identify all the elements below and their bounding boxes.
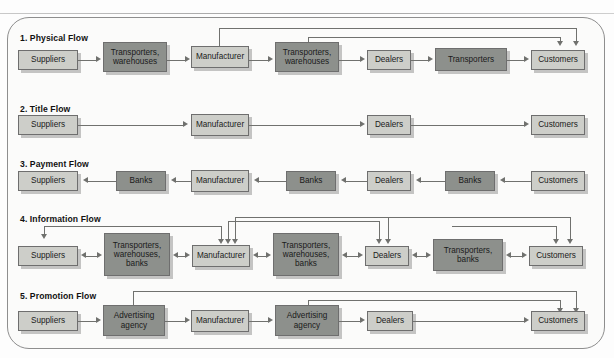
info-arrow-mfr-1 — [218, 239, 224, 244]
info-arrow-right-6 — [522, 252, 527, 258]
info-bus-2-vert-dealers — [379, 221, 380, 239]
physical-conn-3 — [249, 60, 268, 61]
node-customers-promotion: Customers — [531, 311, 585, 331]
info-arrow-right-1 — [97, 252, 102, 258]
node-suppliers-information: Suppliers — [18, 246, 78, 266]
node-transporters-physical: Transporters — [435, 48, 507, 71]
title-conn-2 — [249, 125, 360, 126]
physical-arrow-6 — [524, 56, 529, 62]
node-customers-physical: Customers — [531, 50, 585, 70]
section-title-payment-flow: 3. Payment Flow — [20, 159, 89, 169]
info-bus-4-vert-customers — [556, 226, 557, 239]
promo-conn-5 — [413, 321, 524, 322]
physical-conn-1 — [78, 60, 96, 61]
info-arrow-mfr-2 — [225, 239, 231, 244]
promo-return-a-vert-up — [133, 291, 134, 305]
info-arrow-suppliers-1 — [41, 234, 47, 239]
promo-arrow-4 — [360, 317, 365, 323]
info-arrow-right-2 — [185, 252, 190, 258]
node-customers-payment: Customers — [531, 171, 585, 191]
info-bus-3-vert-customers — [570, 217, 571, 239]
promo-arrow-1 — [96, 317, 101, 323]
physical-return-a-horiz — [219, 28, 577, 29]
info-conn-4 — [347, 256, 358, 257]
node-transporters-warehouses-physical-2: Transporters, warehouses — [275, 42, 339, 72]
info-bus-1-vert-suppliers — [44, 226, 45, 234]
node-manufacturer-physical: Manufacturer — [191, 46, 249, 68]
info-conn-1 — [86, 256, 97, 257]
physical-return-a-vert-up — [219, 28, 220, 46]
info-conn-5 — [417, 256, 426, 257]
promo-arrow-3 — [268, 317, 273, 323]
promo-conn-4 — [339, 321, 360, 322]
payment-conn-6 — [505, 181, 531, 182]
promo-return-a-vert-down — [576, 291, 577, 308]
node-dealers-information: Dealers — [365, 246, 409, 266]
node-banks-payment-2: Banks — [286, 171, 336, 191]
info-bus-2-horiz — [228, 221, 380, 222]
physical-conn-6 — [507, 60, 524, 61]
info-bus-3-horiz — [235, 217, 571, 218]
title-arrow-2 — [360, 121, 365, 127]
section-title-promotion-flow: 5. Promotion Flow — [20, 291, 96, 301]
promo-conn-1 — [78, 321, 96, 322]
node-dealers-payment: Dealers — [367, 171, 411, 191]
info-bus-1-vert-mfr — [221, 226, 222, 239]
node-suppliers-physical: Suppliers — [18, 50, 78, 70]
physical-arrow-3 — [268, 56, 273, 62]
payment-conn-1 — [88, 181, 116, 182]
physical-return-a-arrowhead — [573, 41, 579, 46]
promo-return-a-horiz — [133, 291, 577, 292]
physical-return-b-horiz — [308, 37, 561, 38]
info-conn-3 — [258, 256, 266, 257]
node-manufacturer-promotion: Manufacturer — [191, 310, 249, 332]
info-arrow-right-4 — [358, 252, 363, 258]
info-arrow-mfr-3 — [232, 239, 238, 244]
info-bus-1-horiz — [44, 226, 222, 227]
payment-conn-4 — [346, 181, 367, 182]
physical-arrow-2 — [185, 56, 190, 62]
physical-arrow-4 — [360, 56, 365, 62]
info-arrow-dealers-1 — [376, 239, 382, 244]
info-conn-6 — [511, 256, 522, 257]
info-arrow-dealers-2 — [385, 239, 391, 244]
node-dealers-promotion: Dealers — [367, 311, 413, 331]
physical-return-b-arrowhead — [557, 41, 563, 46]
physical-conn-5 — [411, 60, 428, 61]
section-title-physical-flow: 1. Physical Flow — [20, 33, 88, 43]
node-banks-payment-3: Banks — [445, 171, 495, 191]
info-bus-3-vert-dealers — [388, 217, 389, 239]
figure-canvas: 1. Physical Flow Suppliers Transporters,… — [0, 0, 614, 358]
node-manufacturer-title: Manufacturer — [191, 114, 249, 136]
payment-conn-3 — [259, 181, 286, 182]
info-bus-4-horiz — [452, 226, 557, 227]
info-arrow-customers-1 — [553, 239, 559, 244]
node-dealers-physical: Dealers — [367, 50, 411, 70]
node-manufacturer-information: Manufacturer — [192, 245, 250, 267]
physical-return-a-vert-down — [576, 28, 577, 41]
section-title-information-flow: 4. Information Flow — [20, 214, 101, 224]
title-conn-3 — [411, 125, 524, 126]
info-bus-2-vert-mfr — [228, 221, 229, 239]
info-bus-3-vert-mfr — [235, 217, 236, 239]
physical-conn-2 — [167, 60, 185, 61]
info-arrow-right-3 — [266, 252, 271, 258]
node-advertising-agency-promotion-1: Advertising agency — [103, 305, 165, 336]
node-transporters-warehouses-banks-information-1: Transporters, warehouses, banks — [104, 233, 170, 276]
promo-arrow-5 — [524, 317, 529, 323]
promo-return-b-horiz — [308, 300, 561, 301]
physical-conn-4 — [339, 60, 360, 61]
promo-arrow-2 — [185, 317, 190, 323]
node-transporters-banks-information: Transporters, banks — [433, 239, 503, 271]
section-title-title-flow: 2. Title Flow — [20, 104, 70, 114]
node-dealers-title: Dealers — [367, 115, 411, 135]
node-customers-information: Customers — [529, 246, 583, 266]
node-suppliers-title: Suppliers — [18, 115, 78, 135]
node-manufacturer-payment: Manufacturer — [191, 170, 249, 192]
promo-conn-2 — [165, 321, 185, 322]
top-rule-divider — [0, 13, 614, 14]
physical-arrow-5 — [428, 56, 433, 62]
payment-conn-2 — [176, 181, 191, 182]
info-conn-2 — [178, 256, 185, 257]
node-suppliers-promotion: Suppliers — [18, 311, 78, 331]
